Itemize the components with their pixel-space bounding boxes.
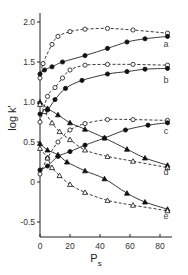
filled-circle-marker bbox=[38, 168, 42, 172]
filled-circle-marker bbox=[165, 121, 169, 125]
series-line bbox=[40, 36, 168, 74]
open-circle-marker bbox=[131, 62, 135, 66]
filled-triangle-marker bbox=[83, 168, 88, 173]
filled-circle-marker bbox=[125, 40, 129, 44]
open-circle-marker bbox=[56, 34, 60, 38]
open-circle-marker bbox=[105, 62, 109, 66]
filled-circle-marker bbox=[45, 164, 49, 168]
curve-label-a: a bbox=[163, 39, 168, 49]
filled-triangle-marker bbox=[56, 112, 61, 117]
y-tick-label: 2.0 bbox=[23, 17, 35, 27]
open-triangle-marker bbox=[68, 137, 73, 142]
filled-circle-marker bbox=[50, 65, 54, 69]
open-circle-marker bbox=[83, 122, 87, 126]
filled-circle-marker bbox=[68, 150, 72, 154]
open-circle-marker bbox=[38, 120, 42, 124]
x-axis-title-subscript: s bbox=[98, 259, 102, 268]
open-triangle-marker bbox=[83, 190, 88, 195]
y-tick-label: 1.0 bbox=[23, 97, 35, 107]
filled-circle-marker bbox=[105, 72, 109, 76]
curve-label-c: c bbox=[164, 126, 169, 136]
y-tick-label: 1.5 bbox=[23, 57, 35, 67]
x-tick-label: 40 bbox=[95, 241, 105, 251]
x-tick-label: 80 bbox=[155, 241, 165, 251]
filled-circle-marker bbox=[125, 70, 129, 74]
filled-circle-marker bbox=[63, 86, 67, 90]
filled-circle-marker bbox=[123, 128, 127, 132]
y-axis-title: log k' bbox=[6, 105, 18, 130]
chart: -0.500.51.01.52.0020406080 abcde log k' … bbox=[0, 0, 188, 275]
filled-circle-marker bbox=[165, 34, 169, 38]
data-series bbox=[38, 26, 171, 213]
curve-label-d: d bbox=[163, 167, 168, 177]
open-triangle-marker bbox=[50, 165, 55, 170]
filled-triangle-marker bbox=[102, 176, 107, 181]
axes: -0.500.51.01.52.0020406080 bbox=[20, 13, 172, 251]
open-circle-marker bbox=[60, 76, 64, 80]
curve-label-e: e bbox=[163, 211, 168, 221]
y-tick-label: 0.5 bbox=[23, 137, 35, 147]
filled-circle-marker bbox=[38, 72, 42, 76]
filled-triangle-marker bbox=[125, 191, 130, 196]
open-circle-marker bbox=[41, 62, 45, 66]
filled-circle-marker bbox=[83, 143, 87, 147]
series-a-circle-open bbox=[38, 26, 170, 80]
series-line bbox=[40, 68, 168, 114]
filled-circle-marker bbox=[146, 123, 150, 127]
open-triangle-marker bbox=[50, 120, 55, 125]
open-circle-marker bbox=[50, 42, 54, 46]
open-circle-marker bbox=[83, 63, 87, 67]
series-b-circle-filled bbox=[38, 66, 170, 116]
filled-circle-marker bbox=[80, 78, 84, 82]
open-circle-marker bbox=[83, 27, 87, 31]
filled-triangle-marker bbox=[68, 120, 73, 125]
open-circle-marker bbox=[45, 94, 49, 98]
open-circle-marker bbox=[53, 86, 57, 90]
filled-circle-marker bbox=[60, 60, 64, 64]
open-circle-marker bbox=[68, 128, 72, 132]
filled-triangle-marker bbox=[83, 127, 88, 132]
open-circle-marker bbox=[131, 118, 135, 122]
filled-triangle-marker bbox=[65, 160, 70, 165]
series-line bbox=[40, 64, 168, 122]
filled-triangle-marker bbox=[56, 152, 61, 157]
open-circle-marker bbox=[68, 68, 72, 72]
open-circle-marker bbox=[56, 140, 60, 144]
open-circle-marker bbox=[131, 28, 135, 32]
filled-circle-marker bbox=[143, 37, 147, 41]
filled-circle-marker bbox=[165, 66, 169, 70]
series-a-circle-filled bbox=[38, 34, 170, 76]
open-circle-marker bbox=[38, 76, 42, 80]
open-circle-marker bbox=[105, 26, 109, 30]
x-tick-label: 60 bbox=[125, 241, 135, 251]
open-triangle-marker bbox=[38, 146, 43, 151]
y-tick-label: -0.5 bbox=[20, 217, 35, 227]
filled-circle-marker bbox=[105, 46, 109, 50]
open-circle-marker bbox=[105, 118, 109, 122]
curve-label-b: b bbox=[163, 75, 168, 85]
filled-circle-marker bbox=[83, 54, 87, 58]
y-tick-label: 0 bbox=[30, 177, 35, 187]
filled-triangle-marker bbox=[125, 147, 130, 152]
filled-circle-marker bbox=[53, 98, 57, 102]
open-triangle-marker bbox=[83, 148, 88, 153]
filled-circle-marker bbox=[42, 68, 46, 72]
open-circle-marker bbox=[68, 30, 72, 34]
x-tick-label: 20 bbox=[65, 241, 75, 251]
open-circle-marker bbox=[38, 172, 42, 176]
filled-triangle-marker bbox=[45, 148, 50, 153]
x-tick-label: 0 bbox=[38, 241, 43, 251]
x-axis-title: Ps bbox=[90, 252, 101, 268]
filled-circle-marker bbox=[143, 67, 147, 71]
open-triangle-marker bbox=[68, 182, 73, 187]
